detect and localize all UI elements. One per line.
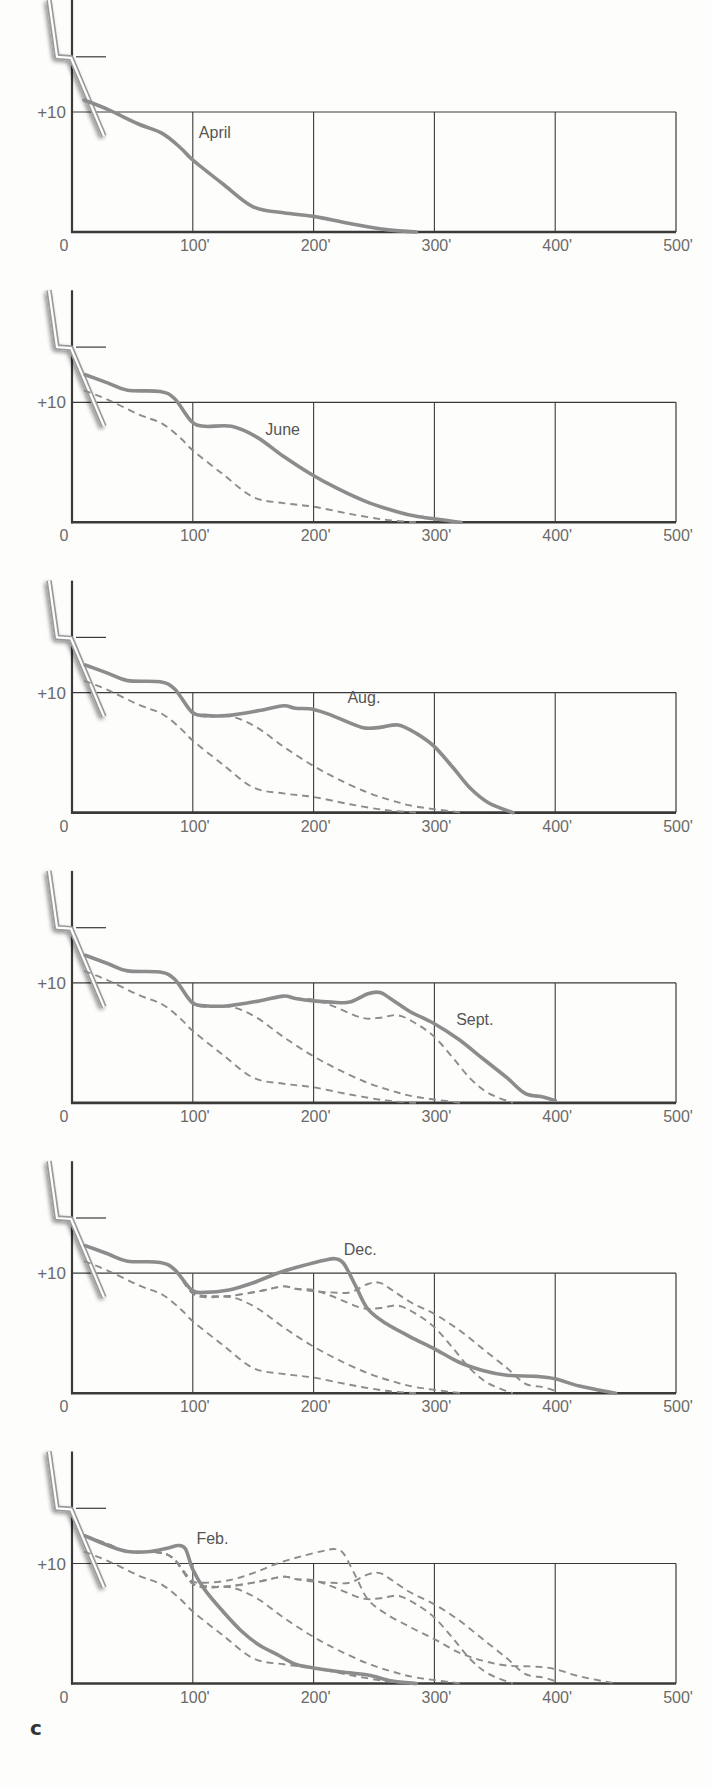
profile-panel-june: June+100100'200'300'400'500' [37, 290, 693, 544]
beach-profile-figure: April+100100'200'300'400'500'June+100100… [0, 0, 712, 1786]
curve-label: Aug. [347, 689, 380, 706]
curve-label: June [265, 421, 300, 438]
profile-curve-june-previous [85, 1536, 461, 1684]
x-tick-label: 0 [60, 818, 69, 835]
x-tick-label: 300' [422, 818, 452, 835]
x-tick-label: 400' [542, 1108, 572, 1125]
x-tick-label: 100' [180, 1689, 210, 1706]
y-tick-label: +10 [37, 684, 66, 703]
profile-panel-aug: Aug.+100100'200'300'400'500' [37, 581, 693, 835]
x-tick-label: 100' [180, 1398, 210, 1415]
x-tick-label: 400' [542, 818, 572, 835]
profile-curve-june-previous [85, 1246, 461, 1394]
x-tick-label: 100' [180, 1108, 210, 1125]
x-tick-label: 300' [422, 527, 452, 544]
profile-curve-april [84, 100, 416, 232]
x-tick-label: 300' [422, 237, 452, 254]
profile-curve-june [85, 375, 461, 523]
x-tick-label: 200' [301, 1398, 331, 1415]
x-tick-label: 0 [60, 237, 69, 254]
curve-label: Dec. [344, 1241, 377, 1258]
x-tick-label: 400' [542, 1689, 572, 1706]
y-tick-label: +10 [37, 1264, 66, 1283]
profile-curve-june-previous [85, 665, 461, 813]
profile-panel-april: April+100100'200'300'400'500' [37, 0, 693, 254]
x-tick-label: 0 [60, 1689, 69, 1706]
x-tick-label: 500' [663, 1398, 693, 1415]
x-tick-label: 500' [663, 818, 693, 835]
x-tick-label: 500' [663, 237, 693, 254]
profile-curve-feb [85, 1536, 416, 1684]
x-tick-label: 200' [301, 237, 331, 254]
x-tick-label: 100' [180, 818, 210, 835]
curve-label: Sept. [456, 1011, 493, 1028]
x-tick-label: 200' [301, 1689, 331, 1706]
profile-panel-feb: Feb.+100100'200'300'400'500' [37, 1452, 693, 1706]
x-tick-label: 0 [60, 1398, 69, 1415]
x-tick-label: 400' [542, 237, 572, 254]
x-tick-label: 200' [301, 818, 331, 835]
profile-panel-dec: Dec.+100100'200'300'400'500' [37, 1161, 693, 1415]
figure-label: c [30, 1716, 42, 1740]
x-tick-label: 100' [180, 527, 210, 544]
x-tick-label: 500' [663, 1108, 693, 1125]
curve-label: April [199, 124, 231, 141]
y-tick-label: +10 [37, 103, 66, 122]
profile-panel-sept: Sept.+100100'200'300'400'500' [37, 871, 693, 1125]
x-tick-label: 500' [663, 1689, 693, 1706]
x-tick-label: 100' [180, 237, 210, 254]
profile-curve-aug-previous [85, 1536, 513, 1684]
profile-curve-aug-previous [85, 955, 513, 1103]
y-tick-label: +10 [37, 1555, 66, 1574]
profile-curve-sept-previous [85, 1536, 555, 1681]
profile-curve-aug [85, 665, 513, 813]
profile-curve-sept-previous [85, 1246, 555, 1391]
profile-curve-dec-previous [85, 1536, 615, 1684]
x-tick-label: 400' [542, 527, 572, 544]
x-tick-label: 300' [422, 1108, 452, 1125]
profile-curve-june-previous [85, 955, 461, 1103]
profile-curve-april-previous [84, 1261, 416, 1393]
profile-curve-dec [85, 1246, 615, 1394]
profile-curve-april-previous [84, 971, 416, 1103]
x-tick-label: 300' [422, 1398, 452, 1415]
profile-curve-april-previous [84, 1552, 416, 1684]
x-tick-label: 500' [663, 527, 693, 544]
curve-label: Feb. [196, 1530, 228, 1547]
x-tick-label: 400' [542, 1398, 572, 1415]
x-tick-label: 0 [60, 527, 69, 544]
x-tick-label: 200' [301, 1108, 331, 1125]
y-tick-label: +10 [37, 393, 66, 412]
y-tick-label: +10 [37, 974, 66, 993]
x-tick-label: 0 [60, 1108, 69, 1125]
x-tick-label: 200' [301, 527, 331, 544]
x-tick-label: 300' [422, 1689, 452, 1706]
